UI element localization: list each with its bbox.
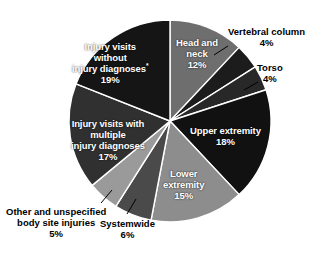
slice-label-other-unspecified: Other and unspecified body site injuries… — [6, 206, 106, 239]
slice-value-systemwide: 6% — [100, 229, 155, 240]
slice-label-head-and-neck-line2: neck — [186, 48, 207, 59]
slice-label-upper-extremity-line1: Upper extremity — [190, 125, 261, 136]
slice-label-torso: Torso 4% — [257, 62, 283, 84]
slice-value-head-and-neck: 12% — [176, 59, 218, 70]
slice-label-upper-extremity: Upper extremity 18% — [190, 125, 261, 147]
slice-value-torso: 4% — [257, 73, 283, 84]
slice-label-lower-extremity: Lower extremity 15% — [163, 168, 204, 201]
slice-value-injury-visits-without: 19% — [72, 74, 148, 85]
slice-label-systemwide: Systemwide 6% — [100, 218, 155, 240]
slice-label-injury-visits-without-line1: Injury visits — [84, 41, 136, 52]
slice-label-head-and-neck: Head and neck 12% — [176, 37, 218, 70]
slice-label-torso-line1: Torso — [257, 62, 283, 73]
footnote-marker-injury-visits-without: * — [146, 62, 148, 69]
slice-value-lower-extremity: 15% — [163, 190, 204, 201]
slice-label-vertebral-column-line1: Vertebral column — [228, 26, 305, 37]
slice-label-lower-extremity-line1: Lower — [170, 168, 197, 179]
slice-label-injury-visits-multiple-line1: Injury visits with — [72, 118, 145, 129]
slice-label-vertebral-column: Vertebral column 4% — [228, 26, 305, 48]
slice-value-other-unspecified: 5% — [6, 228, 106, 239]
slice-label-injury-visits-multiple: Injury visits with multiple injury diagn… — [71, 118, 145, 162]
slice-label-injury-visits-without-line3: injury diagnoses — [72, 63, 146, 74]
slice-label-injury-visits-without: Injury visits without injury diagnoses* … — [72, 41, 148, 85]
slice-label-systemwide-line1: Systemwide — [100, 218, 155, 229]
slice-label-injury-visits-multiple-line2: multiple — [90, 129, 126, 140]
slice-value-vertebral-column: 4% — [228, 37, 305, 48]
slice-label-other-unspecified-line1: Other and unspecified — [6, 206, 106, 217]
slice-label-injury-visits-multiple-line3: injury diagnoses — [71, 140, 145, 151]
slice-label-other-unspecified-line2: body site injuries — [17, 217, 95, 228]
slice-label-head-and-neck-line1: Head and — [176, 37, 218, 48]
pie-chart: Head and neck 12% Upper extremity 18% Lo… — [0, 0, 314, 255]
slice-label-lower-extremity-line2: extremity — [163, 179, 204, 190]
slice-value-injury-visits-multiple: 17% — [71, 151, 145, 162]
slice-value-upper-extremity: 18% — [190, 136, 261, 147]
slice-label-injury-visits-without-line2: without — [94, 52, 127, 63]
